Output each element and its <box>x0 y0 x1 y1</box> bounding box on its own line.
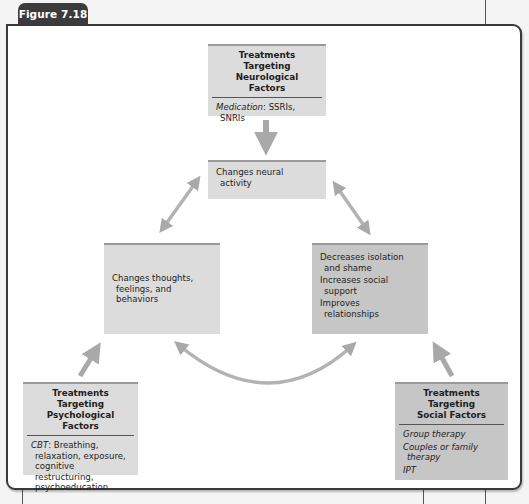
treatment-type: CBT <box>31 440 48 450</box>
social-treatments-title: Treatments Targeting Social Factors <box>399 384 504 425</box>
treatment-item: Group therapy <box>403 429 494 440</box>
social-outcomes-box: Decreases isolation and shame Increases … <box>312 243 428 334</box>
neurological-treatments-box: Treatments Targeting Neurological Factor… <box>208 44 326 116</box>
title-line: Treatments Targeting <box>31 388 130 410</box>
psychological-treatments-title: Treatments Targeting Psychological Facto… <box>27 384 134 436</box>
page-rule-bottom-right <box>485 488 486 504</box>
thoughts-text: Changes thoughts, feelings, and behavior… <box>112 273 212 305</box>
social-treatments-body: Group therapy Couples or family therapy … <box>395 425 508 481</box>
thoughts-feelings-behaviors-box: Changes thoughts, feelings, and behavior… <box>104 243 220 334</box>
figure-label: Figure 7.18 <box>19 8 88 20</box>
neurological-treatments-title: Treatments Targeting Neurological Factor… <box>212 46 322 98</box>
neurological-treatments-body: Medication: SSRIs, SNRIs <box>208 98 326 129</box>
title-line: Treatments Targeting <box>403 388 500 410</box>
social-treatments-box: Treatments Targeting Social Factors Grou… <box>395 382 508 480</box>
treatment-item: IPT <box>403 465 494 476</box>
neural-activity-box: Changes neural activity <box>208 160 326 199</box>
outcome-item: Increases social support <box>320 275 412 296</box>
psychological-treatments-body: CBT: Breathing, relaxation, exposure, co… <box>23 436 138 499</box>
title-line: Treatments Targeting <box>216 50 318 72</box>
figure-label-tab: Figure 7.18 <box>18 3 88 26</box>
treatment-type: Medication <box>216 102 263 112</box>
page-rule-top <box>485 0 486 25</box>
title-line: Psychological Factors <box>31 410 130 432</box>
psychological-treatments-box: Treatments Targeting Psychological Facto… <box>23 382 138 475</box>
treatment-detail: : Breathing, relaxation, exposure, cogni… <box>35 440 126 492</box>
outcome-item: Decreases isolation and shame <box>320 252 412 273</box>
neural-activity-text: Changes neural activity <box>216 167 318 188</box>
outcome-item: Improves relationships <box>320 298 412 319</box>
page-rule-bottom-mid <box>423 488 424 504</box>
title-line: Social Factors <box>403 410 500 421</box>
treatment-item: Couples or family therapy <box>403 442 494 463</box>
title-line: Neurological Factors <box>216 72 318 94</box>
